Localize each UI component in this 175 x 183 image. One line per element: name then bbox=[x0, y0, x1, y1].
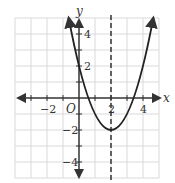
y-tick-label-2: 2 bbox=[84, 60, 91, 73]
y-tick-label-neg2: −2 bbox=[62, 124, 78, 137]
origin-label: O bbox=[66, 102, 76, 116]
x-axis-label: x bbox=[163, 91, 170, 105]
x-tick-label-neg2: −2 bbox=[40, 103, 56, 116]
y-axis-label: y bbox=[75, 4, 83, 18]
y-tick-label-4: 4 bbox=[84, 28, 91, 41]
parabola-graph: x y O −2 2 4 4 2 −2 −4 bbox=[0, 0, 175, 183]
y-tick-label-neg4: −4 bbox=[62, 156, 78, 169]
x-tick-label-2: 2 bbox=[108, 103, 115, 116]
x-tick-label-4: 4 bbox=[140, 103, 147, 116]
